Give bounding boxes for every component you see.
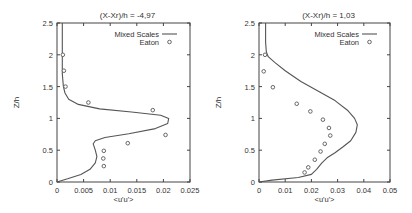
y-tick-label: 1 (251, 114, 255, 123)
chart-panel-1: 00.0050.010.0150.020.02500.511.522.5(X-X… (12, 11, 199, 204)
y-tick-label: 0.5 (43, 146, 53, 155)
eaton-marker (102, 164, 106, 168)
eaton-marker (295, 102, 299, 106)
series-mixed-scales-line (57, 23, 169, 182)
y-tick-label: 2 (49, 51, 53, 60)
x-tick-label: 0.02 (156, 186, 171, 195)
eaton-marker (328, 134, 332, 138)
eaton-marker (327, 126, 331, 130)
eaton-marker (306, 166, 310, 170)
x-tick-label: 0.005 (74, 186, 93, 195)
x-tick-label: 0.04 (356, 186, 371, 195)
eaton-marker (62, 69, 66, 73)
x-axis-label: <u'u'> (315, 195, 336, 204)
eaton-marker (323, 142, 327, 146)
y-tick-label: 1.5 (43, 83, 53, 92)
y-tick-label: 1.5 (245, 83, 255, 92)
series-mixed-scales-line (259, 23, 357, 182)
plot-frame (259, 23, 390, 182)
legend-label-eaton: Eaton (339, 38, 359, 47)
eaton-marker (102, 149, 106, 153)
y-tick-label: 0.5 (245, 146, 255, 155)
x-tick-label: 0.01 (103, 186, 118, 195)
x-axis-label: <u'u'> (114, 195, 135, 204)
legend-marker-icon (368, 40, 372, 44)
x-tick-label: 0.03 (330, 186, 345, 195)
legend-label-eaton: Eaton (139, 38, 159, 47)
y-tick-label: 2 (251, 51, 255, 60)
eaton-marker (61, 53, 65, 57)
eaton-marker (64, 85, 68, 89)
x-tick-label: 0 (55, 186, 59, 195)
chart-title: (X-Xr)/h = -4,97 (100, 11, 156, 20)
x-tick-label: 0.01 (278, 186, 293, 195)
legend-marker-icon (168, 40, 172, 44)
y-axis-label: Z/h (12, 97, 21, 109)
y-tick-label: 0 (49, 178, 53, 187)
y-tick-label: 0 (251, 178, 255, 187)
eaton-marker (164, 133, 168, 137)
x-tick-label: 0 (257, 186, 261, 195)
eaton-marker (87, 101, 91, 105)
eaton-marker (262, 70, 266, 74)
eaton-marker (101, 157, 105, 161)
x-tick-label: 0.025 (181, 186, 200, 195)
eaton-marker (271, 85, 275, 89)
y-tick-label: 2.5 (43, 19, 53, 28)
y-axis-label: Z/h (214, 97, 223, 109)
x-tick-label: 0.02 (304, 186, 319, 195)
eaton-marker (309, 110, 313, 114)
figure: 00.0050.010.0150.020.02500.511.522.5(X-X… (0, 0, 412, 213)
legend: Mixed ScalesEaton (114, 30, 177, 47)
y-tick-label: 1 (49, 114, 53, 123)
plot-frame (57, 23, 190, 182)
eaton-marker (126, 141, 130, 145)
eaton-marker (319, 150, 323, 154)
y-tick-label: 2.5 (245, 19, 255, 28)
eaton-marker (313, 158, 317, 162)
eaton-marker (321, 118, 325, 122)
chart-panel-2: 00.010.020.030.040.0500.511.522.5(X-Xr)/… (214, 11, 397, 204)
eaton-marker (263, 53, 267, 57)
x-tick-label: 0.015 (127, 186, 146, 195)
legend: Mixed ScalesEaton (314, 30, 377, 47)
eaton-marker (151, 108, 155, 112)
eaton-marker (303, 171, 307, 175)
chart-title: (X-Xr)/h = 1,03 (302, 11, 355, 20)
x-tick-label: 0.05 (383, 186, 398, 195)
